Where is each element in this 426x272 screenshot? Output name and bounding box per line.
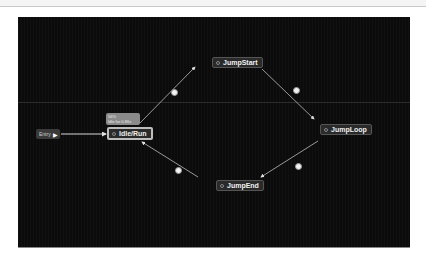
state-label: JumpEnd [227, 182, 259, 189]
state-node-jump-loop[interactable]: JumpLoop [320, 124, 372, 135]
state-machine-canvas[interactable]: Entry ▶ 56% Idle for 0.86s Idle/Run Jump… [18, 17, 410, 248]
state-node-idle-run[interactable]: Idle/Run [107, 127, 153, 140]
state-icon [216, 61, 220, 65]
entry-node[interactable]: Entry ▶ [36, 129, 60, 139]
transition-icon[interactable] [175, 167, 182, 174]
state-info-tooltip: 56% Idle for 0.86s [106, 113, 140, 125]
state-label: JumpStart [223, 59, 258, 66]
play-arrow-icon: ▶ [53, 131, 58, 138]
entry-label: Entry [39, 131, 51, 137]
state-icon [324, 128, 328, 132]
state-label: JumpLoop [331, 126, 367, 133]
transition-icon[interactable] [171, 89, 178, 96]
transition-icon[interactable] [293, 87, 300, 94]
state-node-jump-start[interactable]: JumpStart [212, 57, 263, 68]
transition-icon[interactable] [295, 163, 302, 170]
state-icon [112, 132, 116, 136]
state-icon [220, 184, 224, 188]
info-status: Idle for 0.86s [108, 119, 138, 124]
state-label: Idle/Run [119, 130, 147, 137]
top-toolbar [0, 0, 426, 7]
state-node-jump-end[interactable]: JumpEnd [216, 180, 264, 191]
